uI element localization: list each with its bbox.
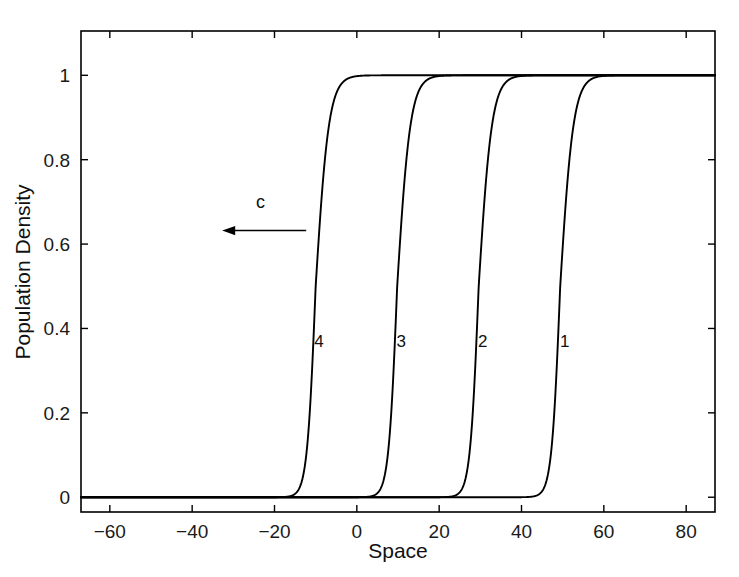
y-axis-tick-labels: 00.20.40.60.81 (44, 65, 71, 508)
wave-speed-label: c (256, 192, 265, 212)
curve-label-3: 3 (397, 332, 406, 351)
curve-label-1: 1 (560, 332, 569, 351)
x-tick-label: −20 (258, 521, 290, 542)
figure-container: −60−40−20020406080 00.20.40.60.81 1234 c… (0, 0, 739, 577)
population-density-wave-chart: −60−40−20020406080 00.20.40.60.81 1234 c… (0, 0, 739, 577)
x-tick-label: −40 (176, 521, 208, 542)
x-axis-title: Space (368, 539, 428, 562)
x-tick-label: −60 (94, 521, 126, 542)
y-tick-label: 1 (59, 65, 70, 86)
x-tick-label: 80 (676, 521, 697, 542)
y-axis-title: Population Density (11, 184, 34, 360)
y-tick-label: 0.2 (44, 403, 70, 424)
y-tick-label: 0 (59, 487, 70, 508)
x-tick-label: 60 (593, 521, 614, 542)
y-tick-label: 0.8 (44, 150, 70, 171)
x-tick-label: 20 (429, 521, 450, 542)
curve-label-4: 4 (314, 332, 323, 351)
y-tick-label: 0.4 (44, 318, 71, 339)
x-tick-label: 0 (352, 521, 363, 542)
x-tick-label: 40 (511, 521, 532, 542)
curve-label-2: 2 (478, 332, 487, 351)
y-tick-label: 0.6 (44, 234, 70, 255)
